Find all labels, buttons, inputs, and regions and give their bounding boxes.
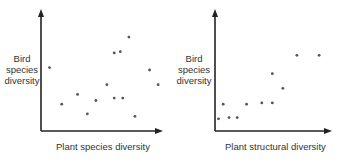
data-point bbox=[281, 87, 284, 90]
data-point bbox=[228, 116, 231, 119]
data-point bbox=[119, 50, 122, 53]
x-axis-arrow-icon bbox=[324, 128, 332, 134]
ylabel-line: diversity bbox=[176, 75, 212, 86]
right-x-axis-label: Plant structural diversity bbox=[225, 141, 326, 152]
data-point bbox=[271, 102, 274, 105]
data-point bbox=[245, 103, 248, 106]
left-x-axis-label: Plant species diversity bbox=[56, 141, 150, 152]
right-y-axis-label: Bird species diversity bbox=[176, 53, 212, 86]
data-point bbox=[260, 102, 263, 105]
ylabel-line: species bbox=[176, 64, 212, 75]
data-point bbox=[134, 115, 137, 118]
data-point bbox=[113, 52, 116, 55]
data-point bbox=[127, 36, 130, 39]
ylabel-line: Bird bbox=[176, 53, 212, 64]
data-point bbox=[271, 72, 274, 75]
ylabel-line: diversity bbox=[4, 75, 40, 86]
ylabel-line: Bird bbox=[4, 53, 40, 64]
data-point bbox=[148, 69, 151, 72]
data-point bbox=[236, 116, 239, 119]
data-point bbox=[76, 93, 79, 96]
data-point bbox=[121, 97, 124, 100]
ylabel-line: species bbox=[4, 64, 40, 75]
data-point bbox=[222, 103, 225, 106]
y-axis-arrow-icon bbox=[212, 9, 218, 17]
data-point bbox=[48, 66, 51, 69]
data-point bbox=[318, 54, 321, 57]
data-point bbox=[217, 117, 220, 120]
data-point bbox=[86, 113, 89, 116]
x-axis-arrow-icon bbox=[155, 128, 163, 134]
data-point bbox=[60, 103, 63, 106]
data-point bbox=[296, 54, 299, 57]
data-point bbox=[95, 99, 98, 102]
left-y-axis-label: Bird species diversity bbox=[4, 53, 40, 86]
data-point bbox=[157, 83, 160, 86]
data-point bbox=[113, 97, 116, 100]
y-axis-arrow-icon bbox=[38, 9, 44, 17]
data-point bbox=[105, 83, 108, 86]
